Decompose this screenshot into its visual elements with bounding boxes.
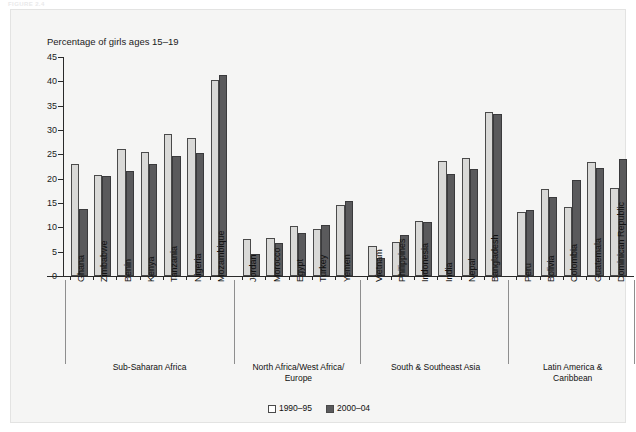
y-axis-tick bbox=[58, 106, 64, 107]
bar-group bbox=[138, 57, 161, 276]
y-axis-tick-label: 45 bbox=[37, 52, 57, 62]
bar-group bbox=[240, 57, 263, 276]
x-axis-tick bbox=[140, 276, 141, 280]
bar-group bbox=[514, 57, 537, 276]
x-axis-category-label: Egypt bbox=[295, 259, 305, 282]
figure-tag: FIGURE 2.4 bbox=[8, 1, 45, 7]
region-separator bbox=[65, 280, 66, 364]
bars-area bbox=[64, 57, 633, 276]
bar-group bbox=[287, 57, 310, 276]
y-axis-tick bbox=[58, 227, 64, 228]
x-axis-category-label: Yemen bbox=[342, 254, 352, 282]
y-axis-tick-label: 15 bbox=[37, 198, 57, 208]
legend-item: 1990–95 bbox=[268, 403, 312, 413]
bar-group bbox=[333, 57, 356, 276]
x-axis-category-label: Colombia bbox=[569, 244, 579, 282]
bar-group bbox=[459, 57, 482, 276]
y-axis-tick-label: 35 bbox=[37, 101, 57, 111]
bar-series-1 bbox=[117, 149, 125, 276]
y-axis-tick-label: 5 bbox=[37, 247, 57, 257]
bar-group bbox=[68, 57, 91, 276]
x-axis-tick bbox=[461, 276, 462, 280]
x-axis-category-label: Benin bbox=[123, 259, 133, 282]
region-separator bbox=[360, 280, 361, 364]
y-axis-tick-label: 20 bbox=[37, 174, 57, 184]
x-axis-category-label: Zimbabwe bbox=[99, 240, 109, 282]
region-separator bbox=[634, 280, 635, 364]
x-axis-category-label: Jordan bbox=[248, 254, 258, 282]
region-separator bbox=[508, 280, 509, 364]
x-axis-tick bbox=[609, 276, 610, 280]
y-axis-tick-label: 25 bbox=[37, 149, 57, 159]
y-axis-tick bbox=[58, 154, 64, 155]
region-label: Latin America &Caribbean bbox=[511, 362, 634, 384]
bar-group bbox=[263, 57, 286, 276]
chart-legend: 1990–952000–04 bbox=[11, 402, 627, 413]
region-label: South & Southeast Asia bbox=[363, 362, 509, 373]
region-label: North Africa/West Africa/Europe bbox=[237, 362, 360, 384]
region-separator bbox=[234, 280, 235, 364]
chart-panel: Percentage of girls ages 15–19 051015202… bbox=[10, 9, 626, 423]
legend-swatch bbox=[268, 405, 276, 413]
bar-series-2 bbox=[447, 174, 455, 276]
x-axis-category-label: Turkey bbox=[318, 255, 328, 282]
x-axis-tick bbox=[312, 276, 313, 280]
x-axis-tick bbox=[186, 276, 187, 280]
x-axis-category-label: Vietnam bbox=[374, 249, 384, 282]
bar-group bbox=[185, 57, 208, 276]
x-axis-category-label: Bangladesh bbox=[490, 234, 500, 282]
bar-series-1 bbox=[438, 161, 446, 276]
y-axis-tick bbox=[58, 81, 64, 82]
x-axis-category-label: Peru bbox=[523, 263, 533, 282]
x-axis-tick bbox=[563, 276, 564, 280]
x-axis-tick bbox=[516, 276, 517, 280]
bar-group bbox=[115, 57, 138, 276]
x-axis-tick bbox=[484, 276, 485, 280]
x-axis-category-label: Morocco bbox=[272, 247, 282, 282]
x-axis-category-label: Bolivia bbox=[546, 255, 556, 282]
x-axis-tick bbox=[289, 276, 290, 280]
x-axis-tick bbox=[93, 276, 94, 280]
x-axis-tick bbox=[70, 276, 71, 280]
bar-group bbox=[436, 57, 459, 276]
x-axis-category-label: Dominican Republic bbox=[616, 202, 626, 282]
x-axis-tick bbox=[116, 276, 117, 280]
x-axis-tick bbox=[210, 276, 211, 280]
x-axis-tick bbox=[414, 276, 415, 280]
x-axis-category-label: Nepal bbox=[467, 258, 477, 282]
x-axis-category-label: Indonesia bbox=[420, 243, 430, 282]
y-axis-tick bbox=[58, 276, 64, 277]
y-axis-tick-label: 30 bbox=[37, 125, 57, 135]
chart-page: FIGURE 2.4 Percentage of girls ages 15–1… bbox=[0, 0, 636, 432]
y-axis-tick bbox=[58, 130, 64, 131]
x-axis-tick bbox=[437, 276, 438, 280]
y-axis-tick-label: 10 bbox=[37, 222, 57, 232]
x-axis-tick bbox=[265, 276, 266, 280]
y-axis-tick bbox=[58, 252, 64, 253]
y-axis-tick bbox=[58, 57, 64, 58]
x-axis-category-label: Kenya bbox=[146, 256, 156, 282]
x-axis-tick bbox=[540, 276, 541, 280]
x-axis-category-label: Tanzania bbox=[169, 246, 179, 282]
legend-item: 2000–04 bbox=[326, 403, 370, 413]
x-axis-category-label: India bbox=[444, 262, 454, 282]
bar-group bbox=[310, 57, 333, 276]
x-axis-tick bbox=[391, 276, 392, 280]
legend-swatch bbox=[326, 405, 334, 413]
bar-group bbox=[366, 57, 389, 276]
x-axis-category-label: Nigeria bbox=[193, 253, 203, 282]
x-axis-tick bbox=[335, 276, 336, 280]
x-axis-category-label: Ghana bbox=[76, 255, 86, 282]
x-axis-tick bbox=[163, 276, 164, 280]
y-axis-tick bbox=[58, 203, 64, 204]
y-axis-labels: 051015202530354045 bbox=[35, 10, 57, 432]
legend-label: 1990–95 bbox=[279, 403, 312, 413]
y-axis-title: Percentage of girls ages 15–19 bbox=[47, 36, 179, 47]
legend-label: 2000–04 bbox=[337, 403, 370, 413]
region-label: Sub-Saharan Africa bbox=[65, 362, 234, 373]
x-axis-category-label: Mozambique bbox=[216, 230, 226, 282]
bar-group bbox=[161, 57, 184, 276]
x-axis-tick bbox=[586, 276, 587, 280]
bar-group bbox=[538, 57, 561, 276]
x-axis-tick bbox=[242, 276, 243, 280]
